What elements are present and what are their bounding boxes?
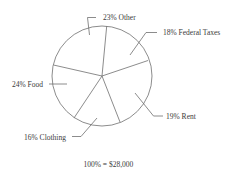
slice-divider-rent-clothing: [102, 76, 120, 122]
leader-line-clothing: [72, 118, 97, 137]
slice-label-other: 23% Other: [88, 13, 137, 35]
label-food: 24% Food: [12, 80, 43, 89]
total-label: 100% = $28,000: [84, 160, 134, 169]
slice-divider-other-taxes: [102, 26, 107, 76]
pie-chart: 23% Other 18% Federal Taxes 19% Rent 24%…: [0, 0, 230, 173]
label-federal-taxes: 18% Federal Taxes: [163, 28, 220, 37]
slice-label-food: 24% Food: [12, 80, 67, 89]
slice-divider-food-other: [54, 65, 103, 76]
label-clothing: 16% Clothing: [24, 133, 66, 142]
pie-body: [52, 26, 152, 126]
slice-label-rent: 19% Rent: [135, 93, 197, 121]
slice-label-clothing: 16% Clothing: [24, 118, 97, 142]
label-rent: 19% Rent: [166, 112, 197, 121]
slice-divider-taxes-rent: [102, 61, 148, 77]
slice-label-federal-taxes: 18% Federal Taxes: [130, 28, 220, 55]
leader-line-rent: [135, 93, 163, 116]
label-other: 23% Other: [103, 13, 136, 22]
leader-line-federal-taxes: [130, 33, 157, 56]
slice-divider-clothing-food: [74, 76, 102, 118]
